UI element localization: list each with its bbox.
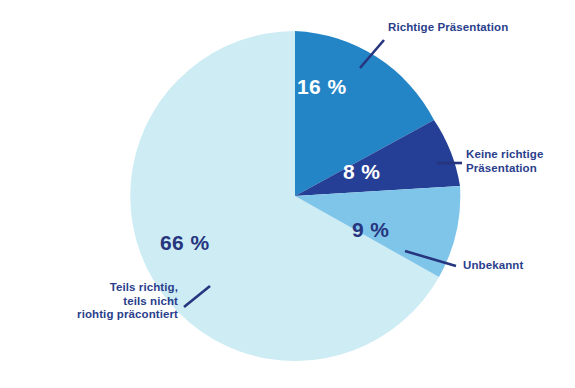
pie-chart-figure: 16 % 8 % 9 % 66 % Richtige Präsentation … [0,0,575,388]
slice-label-unbekannt: Unbekannt [463,259,523,273]
slice-value-richtige-praesentation: 16 % [297,75,346,99]
pie-chart-graphic [0,0,575,388]
slice-label-teils-richtig: Teils richtig, teils nicht riohtig präco… [30,281,178,322]
slice-value-teils-richtig: 66 % [160,231,209,255]
slice-label-richtige-praesentation: Richtige Präsentation [388,21,508,35]
slice-value-keine-richtige-praesentation: 8 % [343,160,380,184]
slice-label-keine-richtige-praesentation: Keine richtige Präsentation [466,148,543,175]
slice-value-unbekannt: 9 % [352,218,389,242]
